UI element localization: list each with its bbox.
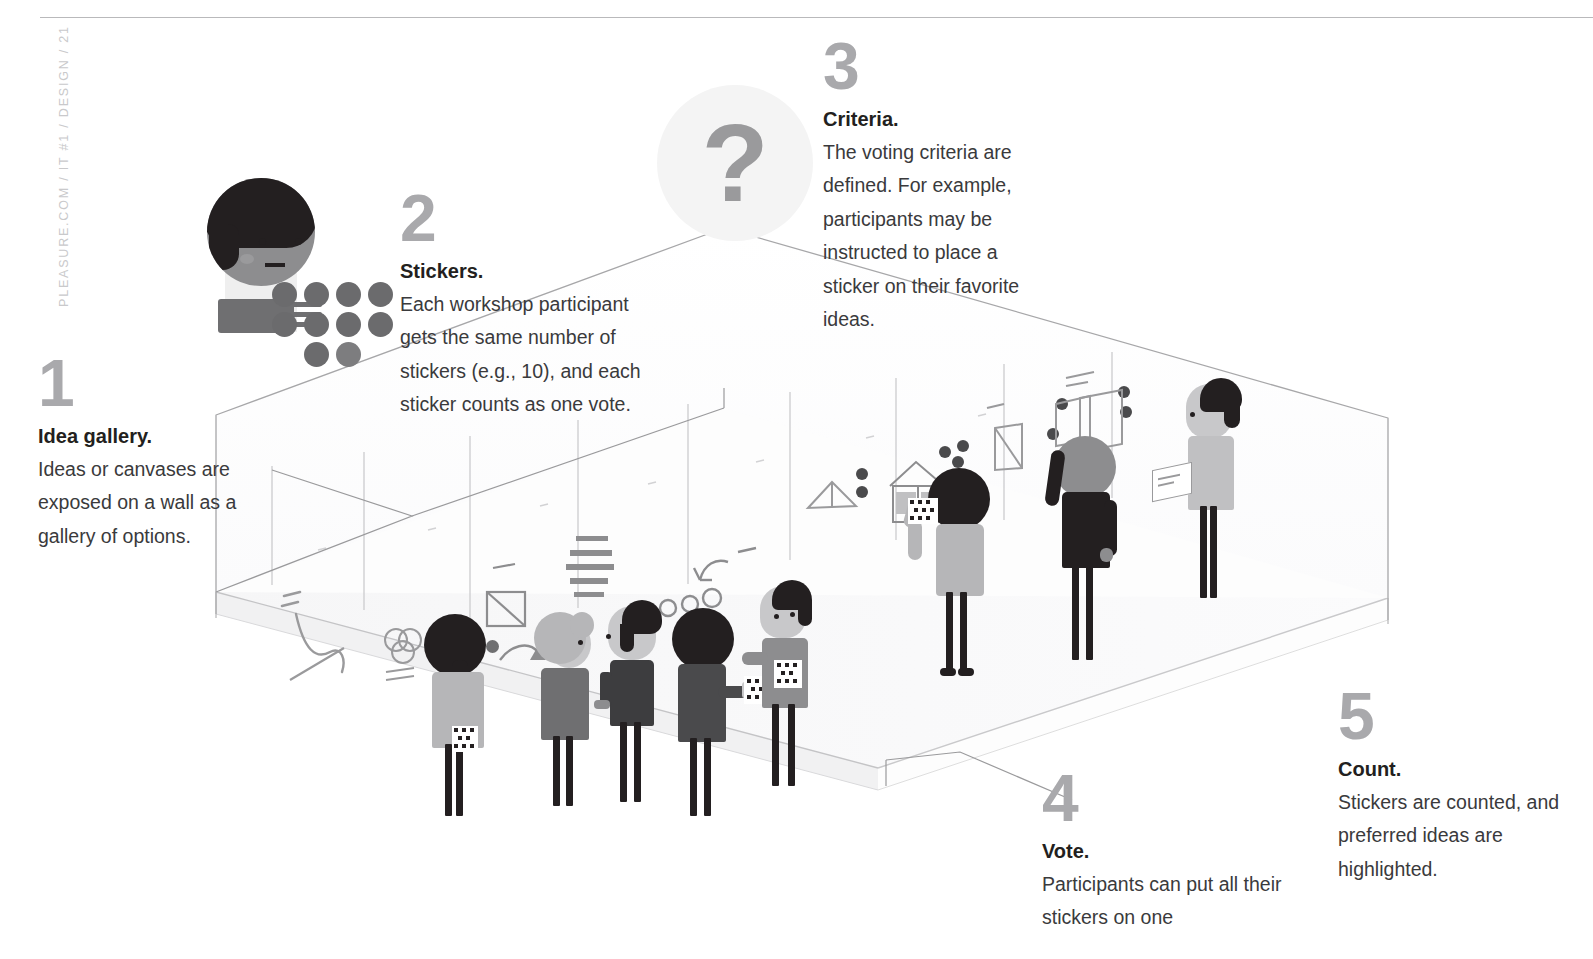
eye-left xyxy=(259,238,266,245)
step-number-5: 5 xyxy=(1338,688,1574,745)
hair-sideburn xyxy=(209,224,239,270)
poster-page: PLEASURE.COM / IT #1 / DESIGN / 21 xyxy=(0,0,1593,959)
step-title-3: Criteria. xyxy=(823,105,1055,134)
step-body-4: Participants can put all their stickers … xyxy=(1042,868,1292,935)
sticker-person-head xyxy=(207,178,315,286)
callout-step-5: 5 Count. Stickers are counted, and prefe… xyxy=(1338,688,1574,886)
step-title-1: Idea gallery. xyxy=(38,422,290,451)
callout-step-1: 1 Idea gallery. Ideas or canvases are ex… xyxy=(38,355,290,553)
cheek xyxy=(240,254,254,264)
step-title-4: Vote. xyxy=(1042,837,1292,866)
callout-step-3: 3 Criteria. The voting criteria are defi… xyxy=(823,38,1055,337)
question-mark-icon: ? xyxy=(657,85,813,241)
step-body-3: The voting criteria are defined. For exa… xyxy=(823,136,1055,337)
step-body-2: Each workshop participant gets the same … xyxy=(400,288,650,422)
step-body-5: Stickers are counted, and preferred idea… xyxy=(1338,786,1574,887)
callout-step-2: 2 Stickers. Each workshop participant ge… xyxy=(400,190,650,422)
step-number-4: 4 xyxy=(1042,770,1292,827)
callout-step-4: 4 Vote. Participants can put all their s… xyxy=(1042,770,1292,935)
step-title-2: Stickers. xyxy=(400,257,650,286)
step-number-3: 3 xyxy=(823,38,1055,95)
step-number-1: 1 xyxy=(38,355,290,412)
step-number-2: 2 xyxy=(400,190,650,247)
step-body-1: Ideas or canvases are exposed on a wall … xyxy=(38,453,290,554)
eye-right xyxy=(295,238,302,245)
step-title-5: Count. xyxy=(1338,755,1574,784)
mouth xyxy=(265,263,285,267)
